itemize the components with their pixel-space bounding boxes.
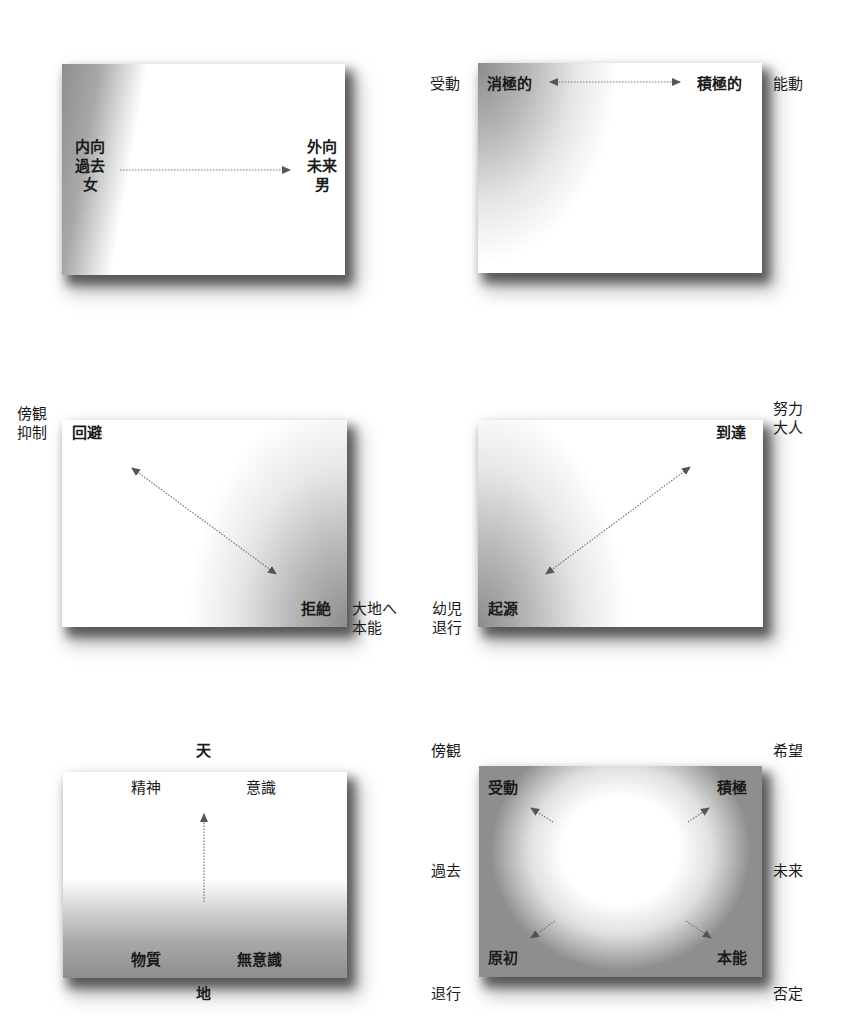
label-line: 内向 [68, 138, 112, 157]
label-denial: 否定 [773, 985, 803, 1004]
label-matter: 物質 [131, 951, 161, 970]
label-reach: 到達 [716, 424, 746, 443]
label-line: 未来 [300, 157, 344, 176]
label-consciousness: 意識 [246, 779, 276, 798]
label-observe-suppress: 傍観 抑制 [17, 405, 47, 443]
label-line: 大地へ [352, 600, 397, 619]
label-line: 男 [300, 176, 344, 195]
shading-bottom-right [62, 420, 347, 627]
shading-top-left [478, 63, 762, 273]
shading-bottom [63, 772, 347, 978]
label-line: 傍観 [17, 405, 47, 424]
label-line: 女 [68, 176, 112, 195]
label-hope: 希望 [773, 742, 803, 761]
label-earth-instinct: 大地へ 本能 [352, 600, 397, 638]
label-active: 積極 [717, 779, 747, 798]
label-extravert: 外向 未来 男 [300, 138, 344, 195]
label-unconscious: 無意識 [237, 951, 282, 970]
label-regress: 退行 [431, 985, 461, 1004]
diagram-panel-origin-reach [478, 420, 763, 627]
label-negative: 消極的 [487, 75, 532, 94]
label-line: 過去 [68, 157, 112, 176]
label-heaven: 天 [196, 742, 211, 761]
label-line: 本能 [352, 619, 397, 638]
diagram-panel-avoid-reject [62, 420, 347, 627]
diagram-panel-passive-active [478, 63, 762, 273]
label-instinct: 本能 [717, 949, 747, 968]
label-earth: 地 [196, 985, 211, 1004]
label-avoid: 回避 [72, 424, 102, 443]
label-infant-regress: 幼児 退行 [432, 600, 462, 638]
label-positive: 積極的 [697, 75, 742, 94]
label-observe: 傍観 [431, 742, 461, 761]
label-line: 努力 [773, 400, 803, 419]
label-future: 未来 [773, 862, 803, 881]
label-passive: 受動 [488, 779, 518, 798]
diagram-panel-heaven-earth [63, 772, 347, 978]
label-reject: 拒絶 [301, 600, 331, 619]
label-introvert: 内向 過去 女 [68, 138, 112, 195]
label-line: 幼児 [432, 600, 462, 619]
label-line: 退行 [432, 619, 462, 638]
label-origin: 起源 [488, 600, 518, 619]
label-primordial: 原初 [488, 949, 518, 968]
shading-bottom-left [478, 420, 763, 627]
label-past: 過去 [431, 862, 461, 881]
label-passive-outer: 受動 [430, 75, 460, 94]
label-line: 抑制 [17, 424, 47, 443]
label-effort-adult: 努力 大人 [773, 400, 803, 438]
label-line: 大人 [773, 419, 803, 438]
label-line: 外向 [300, 138, 344, 157]
label-spirit: 精神 [131, 779, 161, 798]
label-active-outer: 能動 [773, 75, 803, 94]
